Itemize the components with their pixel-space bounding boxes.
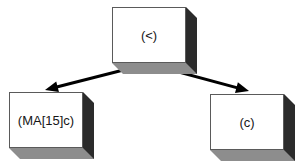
node-left-child[interactable]: (MA[15]c) — [9, 92, 94, 159]
node-root-bottom-face — [112, 63, 197, 74]
node-left-child-front-face: (MA[15]c) — [9, 92, 83, 148]
diagram-canvas: (<) (MA[15]c) (c) — [0, 0, 304, 167]
node-root[interactable]: (<) — [112, 7, 197, 74]
node-right-child-label: (c) — [239, 116, 254, 129]
edge-root-to-right-child-arrowhead — [235, 82, 249, 93]
node-right-child[interactable]: (c) — [210, 94, 295, 161]
node-left-child-bottom-face — [9, 148, 94, 159]
node-root-side-face — [186, 7, 197, 74]
node-right-child-bottom-face — [210, 150, 295, 161]
node-left-child-label: (MA[15]c) — [18, 114, 74, 127]
node-right-child-front-face: (c) — [210, 94, 284, 150]
edge-root-to-left-child-arrowhead — [45, 81, 59, 92]
node-left-child-side-face — [83, 92, 94, 159]
node-root-front-face: (<) — [112, 7, 186, 63]
node-right-child-side-face — [284, 94, 295, 161]
node-root-label: (<) — [141, 29, 157, 42]
